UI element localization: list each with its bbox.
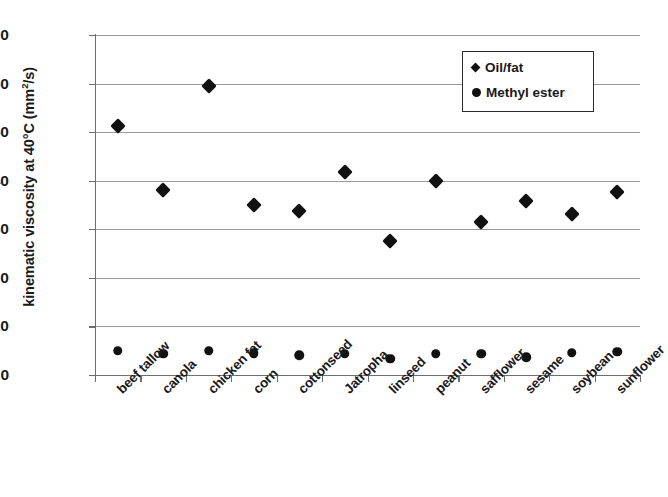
circle-marker-icon — [472, 88, 481, 97]
x-axis-label: corn — [250, 366, 281, 397]
legend-label-oil-fat: Oil/fat — [485, 60, 523, 75]
x-axis-label: peanut — [432, 356, 473, 397]
x-axis-label: sunflower — [613, 342, 667, 396]
x-axis-label: soybean — [568, 348, 616, 396]
legend-item-oil-fat: Oil/fat — [472, 60, 523, 75]
legend-label-methyl-ester: Methyl ester — [486, 85, 565, 100]
x-axis-label: Jatropha — [341, 347, 391, 397]
legend: Oil/fat Methyl ester — [462, 51, 594, 112]
legend-item-methyl-ester: Methyl ester — [472, 85, 565, 100]
x-axis-label: safflower — [477, 345, 528, 396]
diamond-marker-icon — [471, 63, 481, 73]
x-axis-label: linseed — [386, 354, 429, 397]
x-axis-label: sesame — [522, 352, 567, 397]
x-axis-label: canola — [159, 357, 199, 397]
